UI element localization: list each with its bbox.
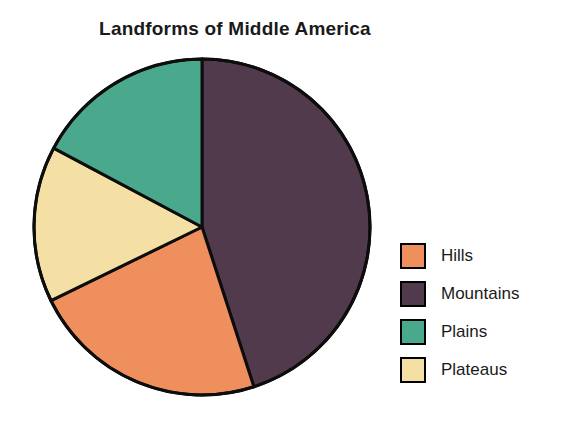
- legend-label: Plateaus: [441, 360, 507, 380]
- legend-item-plateaus: Plateaus: [400, 351, 572, 389]
- legend-swatch-hills: [400, 243, 426, 269]
- pie-svg: [31, 56, 373, 398]
- legend-swatch-plains: [400, 319, 426, 345]
- chart-legend: HillsMountainsPlainsPlateaus: [400, 237, 572, 389]
- pie-plot-area: [31, 56, 373, 398]
- legend-item-mountains: Mountains: [400, 275, 572, 313]
- legend-label: Mountains: [441, 284, 519, 304]
- pie-slice-group: [34, 59, 370, 395]
- legend-swatch-plateaus: [400, 357, 426, 383]
- pie-chart-figure: Landforms of Middle America HillsMountai…: [0, 0, 579, 437]
- legend-item-plains: Plains: [400, 313, 572, 351]
- chart-title: Landforms of Middle America: [0, 18, 470, 40]
- legend-label: Hills: [441, 246, 473, 266]
- legend-swatch-mountains: [400, 281, 426, 307]
- legend-item-hills: Hills: [400, 237, 572, 275]
- legend-label: Plains: [441, 322, 487, 342]
